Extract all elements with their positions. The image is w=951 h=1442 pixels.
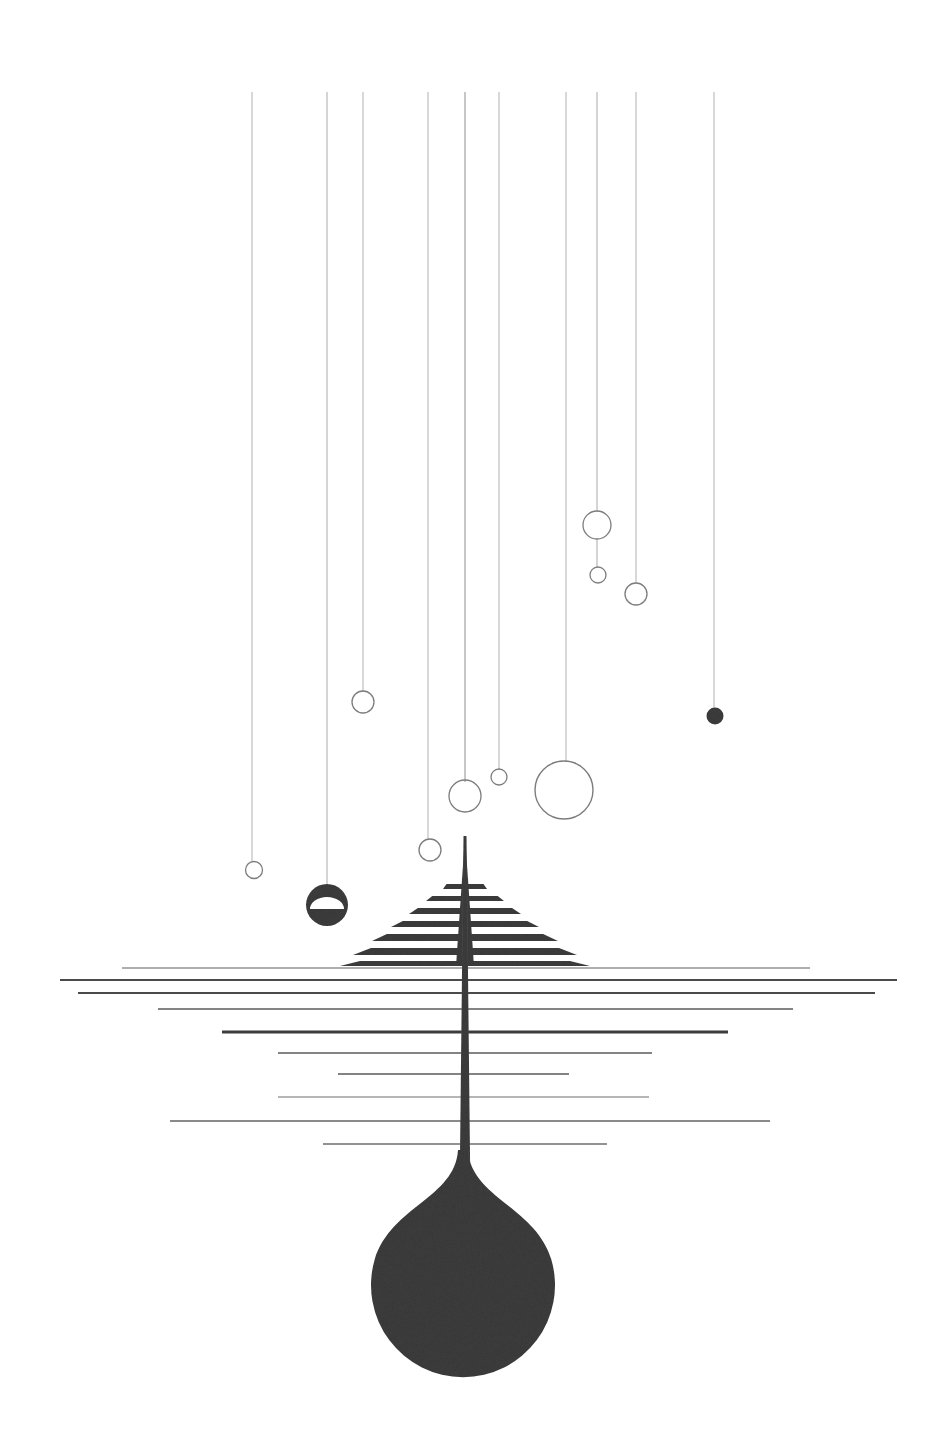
illustration-canvas	[0, 0, 951, 1442]
dot-far-right-filled	[707, 708, 724, 725]
artboard: Abstract ink illustration: ten vertical …	[0, 0, 951, 1442]
